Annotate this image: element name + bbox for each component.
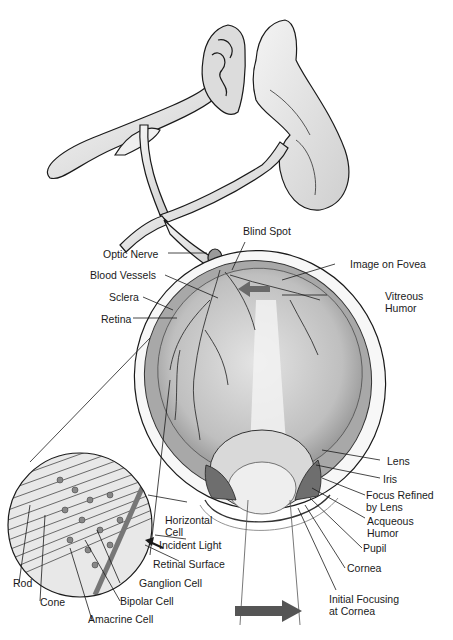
focusing-arrow — [235, 600, 302, 622]
label-cornea: Cornea — [347, 563, 381, 574]
visual-pathway — [47, 20, 348, 270]
label-blood-vessels: Blood Vessels — [90, 270, 156, 281]
label-focus-refined-1: Focus Refined — [366, 490, 434, 501]
label-acqueous-humor-1: Acqueous — [367, 516, 414, 527]
label-horizontal-cell-1: Horizontal — [165, 515, 212, 526]
label-ganglion-cell: Ganglion Cell — [139, 578, 202, 589]
label-bipolar-cell: Bipolar Cell — [120, 596, 174, 607]
label-vitreous-humor-2: Humor — [385, 303, 417, 314]
label-blind-spot: Blind Spot — [243, 226, 291, 237]
label-retinal-surface: Retinal Surface — [153, 559, 225, 570]
label-initial-focusing-1: Initial Focusing — [329, 594, 399, 605]
label-image-on-fovea: Image on Fovea — [350, 259, 426, 270]
label-cone: Cone — [40, 597, 65, 608]
eye-diagram: Optic Nerve Blind Spot Blood Vessels Ima… — [0, 0, 453, 640]
label-initial-focusing-2: at Cornea — [329, 606, 375, 617]
label-acqueous-humor-2: Humor — [367, 528, 399, 539]
label-incident-light: Incident Light — [159, 540, 221, 551]
label-horizontal-cell-2: Cell — [165, 527, 183, 538]
label-amacrine-cell: Amacrine Cell — [88, 614, 153, 625]
label-pupil: Pupil — [363, 543, 386, 554]
label-focus-refined-2: by Lens — [366, 502, 403, 513]
label-iris: Iris — [383, 474, 397, 485]
retina-magnified — [8, 430, 152, 597]
label-sclera: Sclera — [109, 292, 139, 303]
label-vitreous-humor-1: Vitreous — [385, 291, 423, 302]
label-lens: Lens — [387, 456, 410, 467]
label-retina: Retina — [101, 314, 131, 325]
label-rod: Rod — [13, 578, 32, 589]
label-optic-nerve: Optic Nerve — [103, 249, 158, 260]
